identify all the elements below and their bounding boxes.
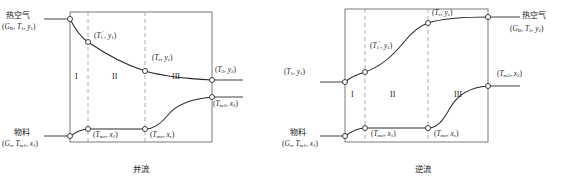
node-material-zone1-label: (Tmc, x1)	[93, 131, 118, 140]
outlet-gas-params: (T2, y2)	[215, 66, 236, 75]
outlet-material-params: (Tm2, x2)	[213, 100, 238, 109]
zone-label-3: III	[454, 90, 462, 99]
node-gas-zone1	[363, 70, 368, 75]
node-gas-zone1-label: (T1′, y1)	[370, 40, 392, 51]
zone-label-1: I	[75, 72, 78, 81]
inlet-material-params: (Gs, Tm1, x1)	[2, 140, 38, 149]
outlet-material-params: (Tm2, x2)	[497, 70, 522, 79]
node-material-inlet	[343, 134, 348, 139]
inlet-material-params: (Gs, Tm1, x1)	[282, 140, 318, 149]
panel-co-current: 热空气 (GB, T1, y1) 物料 (Gs, Tm1, x1) (T1′, …	[0, 0, 281, 178]
outlet-gas-params: (T1, y1)	[284, 68, 305, 77]
zone-label-2: II	[390, 90, 395, 99]
zone-label-3: III	[172, 72, 180, 81]
node-gas-inlet	[68, 17, 73, 22]
node-material-critical	[143, 127, 148, 132]
panel-counter-current: (T1, y1) 物料 (Gs, Tm1, x1) (T1′, y1) (Tc,…	[282, 0, 563, 178]
plot-frame	[70, 12, 212, 142]
node-gas-zone1-label: (T1′, y1)	[94, 30, 116, 41]
gas-curve	[70, 19, 212, 80]
node-gas-critical	[143, 69, 148, 74]
inlet-material-name: 物料	[290, 128, 306, 137]
node-material-inlet	[68, 134, 73, 139]
node-material-outlet	[486, 84, 491, 89]
node-material-zone1-label: (Tmc, x1)	[371, 130, 396, 139]
node-gas-outlet	[210, 78, 215, 83]
node-gas-outlet	[343, 80, 348, 85]
node-gas-inlet	[486, 15, 491, 20]
panel-caption: 逆流	[282, 162, 563, 174]
figure-container: 热空气 (GB, T1, y1) 物料 (Gs, Tm1, x1) (T1′, …	[0, 0, 563, 178]
node-material-critical-label: (Tmc, xc)	[150, 131, 174, 140]
inlet-gas-name: 热空气	[522, 11, 546, 20]
panel-caption: 并流	[0, 162, 281, 174]
node-material-zone1	[363, 126, 368, 131]
inlet-gas-params: (GB, T1, y1)	[2, 23, 35, 32]
zone-label-1: I	[351, 90, 354, 99]
inlet-gas-name: 热空气	[6, 11, 30, 20]
node-gas-critical	[426, 21, 431, 26]
inlet-gas-params: (GB, T2, y2)	[510, 25, 543, 34]
co-current-plot	[0, 0, 281, 178]
node-gas-critical-label: (Tc, yc)	[152, 54, 173, 63]
node-material-critical	[426, 126, 431, 131]
node-material-critical-label: (Tmc, xc)	[434, 130, 458, 139]
zone-label-2: II	[112, 72, 117, 81]
material-curve	[70, 97, 212, 136]
node-material-zone1	[86, 127, 91, 132]
inlet-material-name: 物料	[14, 128, 30, 137]
node-gas-critical-label: (Tc, yc)	[432, 9, 453, 18]
node-gas-zone1	[86, 40, 91, 45]
